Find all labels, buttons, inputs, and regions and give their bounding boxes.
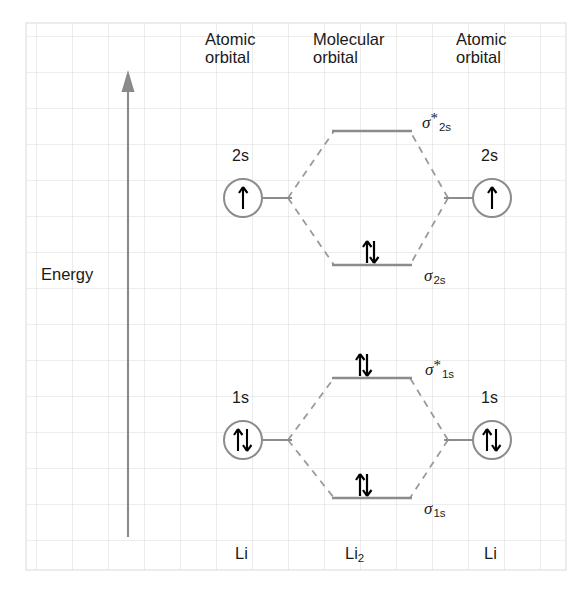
sigma-subscript: 2s xyxy=(432,274,445,286)
ao-label-right-1s: 1s xyxy=(481,389,498,407)
electron-pair-sigma-2s xyxy=(363,241,379,263)
sigma-subscript: 1s xyxy=(441,368,454,380)
species-label-molecular: Li2 xyxy=(345,544,364,565)
atomic-orbital-circle-right-1s xyxy=(473,421,511,459)
species-subscript: 2 xyxy=(358,552,364,564)
mo-label-sigma-star-2s: σ*2s xyxy=(422,110,451,134)
species-label-left: Li xyxy=(235,544,248,562)
electron-pair-sigma-star-1s xyxy=(356,354,372,376)
sigma-subscript: 1s xyxy=(432,507,445,519)
mo-label-sigma-2s: σ2s xyxy=(424,263,446,287)
header-line-1: Atomic xyxy=(205,30,255,48)
energy-axis-arrow xyxy=(122,70,135,537)
atomic-orbital-circle-left-1s xyxy=(224,421,262,459)
sigma-subscript: 2s xyxy=(438,121,451,133)
electron-pair-sigma-1s xyxy=(356,474,372,496)
header-line-2: orbital xyxy=(313,48,385,66)
mo-diagram-canvas: Atomic orbital Molecular orbital Atomic … xyxy=(0,0,580,589)
header-line-1: Molecular xyxy=(313,30,385,48)
header-line-1: Atomic xyxy=(456,30,506,48)
species-symbol: Li xyxy=(345,544,358,562)
energy-axis-label: Energy xyxy=(41,265,93,283)
header-line-2: orbital xyxy=(205,48,255,66)
ao-label-right-2s: 2s xyxy=(481,147,498,165)
mo-label-sigma-star-1s: σ*1s xyxy=(425,357,454,381)
column-header-left-atomic: Atomic orbital xyxy=(205,30,255,67)
antibonding-star: * xyxy=(433,357,441,373)
ao-label-left-1s: 1s xyxy=(232,389,249,407)
atomic-orbital-circle-left-2s xyxy=(224,179,262,217)
mo-label-sigma-1s: σ1s xyxy=(424,496,446,520)
diagram-vectors xyxy=(0,0,580,589)
column-header-right-atomic: Atomic orbital xyxy=(456,30,506,67)
species-label-right: Li xyxy=(484,544,497,562)
antibonding-star: * xyxy=(430,110,438,126)
column-header-molecular: Molecular orbital xyxy=(313,30,385,67)
header-line-2: orbital xyxy=(456,48,506,66)
ao-label-left-2s: 2s xyxy=(232,147,249,165)
atomic-orbital-circle-right-2s xyxy=(473,179,511,217)
